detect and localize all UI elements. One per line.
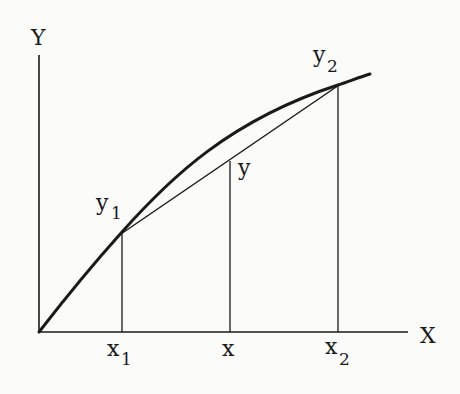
y-axis-label: Y <box>30 25 46 50</box>
x-interp-label: x <box>222 336 235 361</box>
interpolation-diagram: Y X y 1 y y 2 x 1 x x 2 <box>0 0 460 394</box>
x-axis-label: X <box>420 323 436 348</box>
y2-label: y <box>312 42 326 67</box>
x1-label: x <box>107 336 120 361</box>
curve <box>39 74 370 332</box>
y-interp-label: y <box>237 155 251 180</box>
y1-subscript: 1 <box>111 203 122 223</box>
x2-label: x <box>325 334 338 359</box>
x1-subscript: 1 <box>121 349 132 369</box>
y1-label: y <box>95 190 109 215</box>
x2-subscript: 2 <box>339 349 350 369</box>
y2-subscript: 2 <box>327 56 338 76</box>
